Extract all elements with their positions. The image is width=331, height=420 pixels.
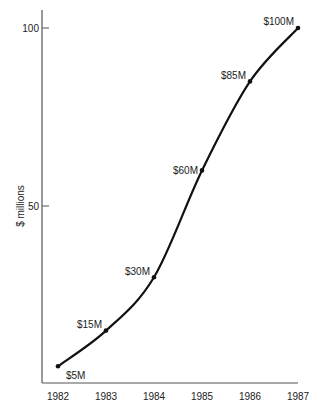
data-point-label: $5M — [66, 370, 85, 381]
x-tick-label: 1986 — [239, 391, 262, 402]
data-point — [296, 26, 301, 31]
x-tick-label: 1984 — [143, 391, 166, 402]
y-axis-title: $ millions — [15, 185, 26, 227]
data-point — [104, 328, 109, 333]
data-series — [58, 28, 298, 366]
chart-canvas: 50100198219831984198519861987 $ millions… — [0, 0, 331, 420]
x-tick-label: 1985 — [191, 391, 214, 402]
y-tick-label: 100 — [22, 23, 39, 34]
data-point — [248, 79, 253, 84]
data-point-label: $100M — [263, 16, 294, 27]
data-point-label: $85M — [221, 70, 246, 81]
data-point — [200, 168, 205, 173]
y-tick-label: 50 — [28, 201, 40, 212]
y-axis-title-group: $ millions — [15, 185, 26, 227]
data-point — [152, 275, 157, 280]
data-points: $5M$15M$30M$60M$85M$100M — [56, 16, 301, 381]
x-tick-label: 1982 — [47, 391, 70, 402]
revenue-line-chart: 50100198219831984198519861987 $ millions… — [0, 0, 331, 420]
data-point-label: $30M — [125, 266, 150, 277]
data-point — [56, 364, 61, 369]
axes: 50100198219831984198519861987 — [22, 10, 309, 402]
revenue-curve — [58, 28, 298, 366]
data-point-label: $15M — [77, 319, 102, 330]
x-tick-label: 1983 — [95, 391, 118, 402]
x-tick-label: 1987 — [287, 391, 310, 402]
data-point-label: $60M — [173, 165, 198, 176]
